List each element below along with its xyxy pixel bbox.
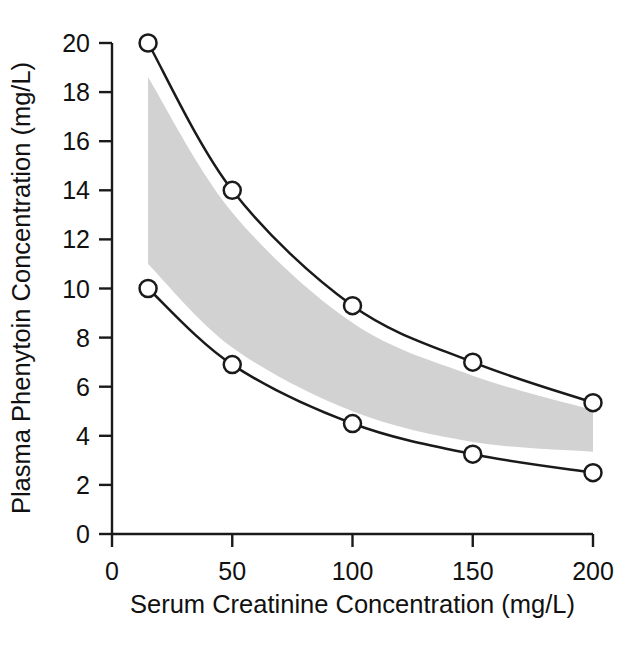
data-point-marker <box>585 394 602 411</box>
x-tick-label-100: 100 <box>332 557 374 585</box>
x-tick-label-150: 150 <box>452 557 494 585</box>
y-tick-label-6: 6 <box>76 373 90 401</box>
data-point-marker <box>585 464 602 481</box>
x-axis-title: Serum Creatinine Concentration (mg/L) <box>130 590 575 618</box>
y-tick-label-10: 10 <box>62 275 90 303</box>
data-point-marker <box>224 356 241 373</box>
data-point-marker <box>464 446 481 463</box>
line-chart-svg: 02468101214161820 050100150200 Serum Cre… <box>0 0 638 650</box>
data-point-marker <box>140 35 157 52</box>
y-tick-label-0: 0 <box>76 520 90 548</box>
y-tick-label-18: 18 <box>62 78 90 106</box>
x-tick-label-50: 50 <box>218 557 246 585</box>
y-tick-label-4: 4 <box>76 422 90 450</box>
y-tick-label-12: 12 <box>62 225 90 253</box>
y-tick-label-16: 16 <box>62 127 90 155</box>
chart-figure: 02468101214161820 050100150200 Serum Cre… <box>0 0 638 650</box>
x-tick-label-200: 200 <box>572 557 614 585</box>
y-axis-title: Plasma Phenytoin Concentration (mg/L) <box>7 62 35 514</box>
data-point-marker <box>344 415 361 432</box>
y-tick-label-14: 14 <box>62 176 90 204</box>
x-tick-label-0: 0 <box>105 557 119 585</box>
data-point-marker <box>224 182 241 199</box>
y-tick-label-20: 20 <box>62 29 90 57</box>
data-point-marker <box>140 280 157 297</box>
data-point-marker <box>464 354 481 371</box>
data-point-marker <box>344 297 361 314</box>
y-tick-label-8: 8 <box>76 324 90 352</box>
y-tick-label-2: 2 <box>76 471 90 499</box>
